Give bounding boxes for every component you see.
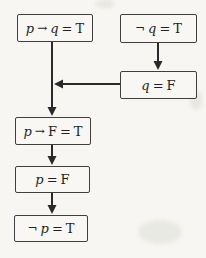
equals-symbol: =: [153, 78, 164, 93]
truth-value: T: [75, 21, 84, 36]
edge-into-substitution-arrowhead: [48, 107, 57, 116]
expression-token: p: [41, 221, 49, 236]
expression-token: p: [24, 124, 32, 139]
truth-value: T: [74, 124, 83, 139]
edge-into-not-p-arrowhead: [48, 205, 57, 214]
node-premise-negation: ¬ q = T: [120, 14, 197, 43]
implies-symbol: →: [35, 124, 45, 138]
node-conclusion-not-p: ¬ p = T: [14, 215, 88, 242]
not-symbol: ¬: [28, 222, 38, 236]
edge-q-false-arrowhead: [54, 80, 63, 89]
equals-symbol: =: [159, 21, 170, 36]
node-step-substitution: p → F = T: [15, 117, 91, 145]
scan-smudge: [138, 220, 182, 244]
scan-smudge: [95, 0, 115, 8]
expression-token: p: [26, 21, 34, 36]
node-step-q-false: q = F: [120, 71, 197, 99]
truth-value: T: [66, 221, 75, 236]
expression-token: p: [35, 172, 43, 187]
not-symbol: ¬: [135, 22, 145, 36]
expression-token: q: [50, 21, 58, 36]
truth-value: F: [61, 172, 70, 187]
equals-symbol: =: [62, 21, 73, 36]
equals-symbol: =: [60, 124, 71, 139]
expression-token: q: [141, 78, 149, 93]
equals-symbol: =: [52, 221, 63, 236]
expression-token: q: [148, 21, 156, 36]
equals-symbol: =: [47, 172, 58, 187]
implies-symbol: →: [37, 21, 47, 35]
node-premise-conditional: p → q = T: [17, 14, 93, 42]
truth-value: F: [48, 124, 57, 139]
edge-into-q-false-arrowhead: [154, 61, 163, 70]
truth-value: F: [167, 78, 176, 93]
logic-flowchart: p → q = T ¬ q = T q = F p → F = T p = F …: [0, 0, 206, 258]
node-step-p-false: p = F: [15, 166, 90, 193]
edge-into-p-false-arrowhead: [48, 156, 57, 165]
truth-value: T: [173, 21, 182, 36]
